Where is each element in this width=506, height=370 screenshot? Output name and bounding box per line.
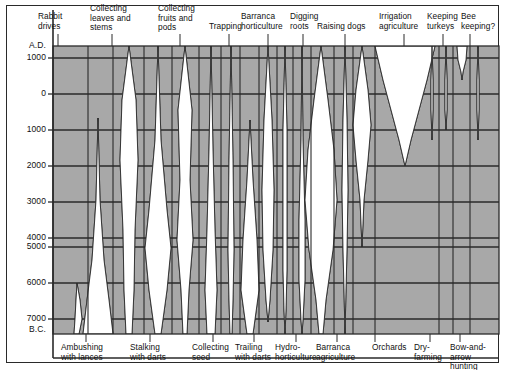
top-label-rabbit-drives: Rabbit drives bbox=[38, 12, 86, 31]
bottom-label-stalking-with-darts: Stalking with darts bbox=[130, 343, 184, 362]
top-leader-ticks bbox=[58, 34, 470, 46]
y-axis-tick-7: 6000 bbox=[6, 277, 46, 287]
bottom-label-barranca-agriculture: Barranca agriculture bbox=[316, 343, 370, 362]
y-axis-tick-2: 1000 bbox=[6, 124, 46, 134]
bottom-label-dry-farming: Dry- farming bbox=[414, 343, 454, 362]
top-label-raising-dogs: Raising dogs bbox=[317, 22, 383, 32]
y-axis-era-top: A.D. bbox=[6, 40, 46, 50]
y-axis-tick-8: 7000 bbox=[6, 313, 46, 323]
y-axis-tick-6: 5000 bbox=[6, 241, 46, 251]
y-axis-tick-0: 1000 bbox=[6, 52, 46, 62]
top-label-barranca-horticulture: Barranca horticulture bbox=[241, 12, 296, 31]
top-label-bee-keeping: Bee keeping? bbox=[461, 12, 506, 31]
y-axis-tick-4: 3000 bbox=[6, 196, 46, 206]
chart-plot-area bbox=[0, 0, 506, 370]
bottom-label-bow-and-arrow-hunting: Bow-and-arrow hunting bbox=[450, 343, 502, 370]
top-label-collecting-leaves-stems: Collecting leaves and stems bbox=[90, 4, 152, 33]
y-axis-tick-3: 2000 bbox=[6, 160, 46, 170]
y-axis-era-bottom: B.C. bbox=[6, 324, 46, 334]
top-label-collecting-fruits-pods: Collecting fruits and pods bbox=[158, 4, 216, 33]
figure-page: A.D. 1000 0 1000 2000 3000 4000 5000 600… bbox=[0, 0, 506, 370]
bottom-label-ambushing-with-lances: Ambushing with lances bbox=[61, 343, 123, 362]
y-axis-tick-1: 0 bbox=[6, 88, 46, 98]
bottom-leader-ticks bbox=[86, 334, 460, 342]
